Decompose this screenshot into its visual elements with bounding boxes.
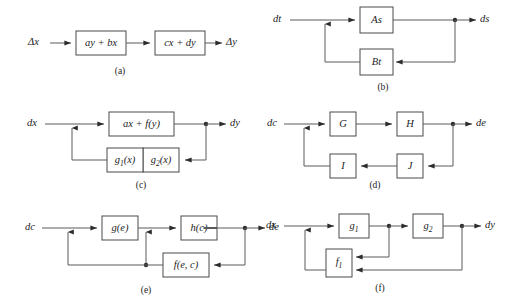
panel-a: Δx ay + bx cx + dy Δy (a) <box>27 31 237 77</box>
panel-c-caption: (c) <box>136 180 147 191</box>
panel-f: dx g1 g2 dy f1 (f) <box>266 214 495 294</box>
panel-c: dx ax + f(y) dy g2(x) g1(x) (c) <box>27 112 240 191</box>
panel-f-output-label: dy <box>485 219 495 230</box>
panel-a-output-label: Δy <box>225 36 237 47</box>
panel-e-block-fec-label: f(e, c) <box>174 259 199 271</box>
panel-b-block-as-label: As <box>370 14 382 25</box>
panel-f-input-label: dx <box>266 219 276 230</box>
panel-d-block-g-label: G <box>339 118 347 129</box>
panel-d-input-label: dc <box>267 117 277 128</box>
panel-b-input-label: dt <box>273 13 282 24</box>
panel-d-block-i-label: I <box>340 160 345 171</box>
panel-d-block-h-label: H <box>405 118 415 129</box>
panel-c-output-label: dy <box>230 117 240 128</box>
panel-d-caption: (d) <box>369 180 380 191</box>
panel-a-input-label: Δx <box>27 36 39 47</box>
panel-b: dt As ds Bt (b) <box>273 7 489 93</box>
block-diagram-figure: Δx ay + bx cx + dy Δy (a) dt As ds Bt (b… <box>0 0 511 305</box>
panel-a-caption: (a) <box>115 66 126 77</box>
panel-f-caption: (f) <box>375 283 385 294</box>
panel-d: dc G H de J I (d) <box>267 112 486 191</box>
panel-c-block-forward-label: ax + f(y) <box>123 118 160 130</box>
panel-a-block-1-label: ay + bx <box>85 37 117 48</box>
panel-a-block-2-label: cx + dy <box>164 37 196 48</box>
diagram-canvas: Δx ay + bx cx + dy Δy (a) dt As ds Bt (b… <box>0 0 511 305</box>
panel-e-block-ge-label: g(e) <box>112 222 129 234</box>
panel-b-output-label: ds <box>480 13 489 24</box>
panel-e-input-label: dc <box>25 221 35 232</box>
panel-b-block-bt-label: Bt <box>372 56 382 67</box>
panel-e: dc g(e) h(c) <box>25 216 279 296</box>
panel-c-input-label: dx <box>27 117 37 128</box>
panel-b-caption: (b) <box>377 82 388 93</box>
panel-e-caption: (e) <box>141 285 152 296</box>
panel-d-output-label: de <box>476 117 486 128</box>
